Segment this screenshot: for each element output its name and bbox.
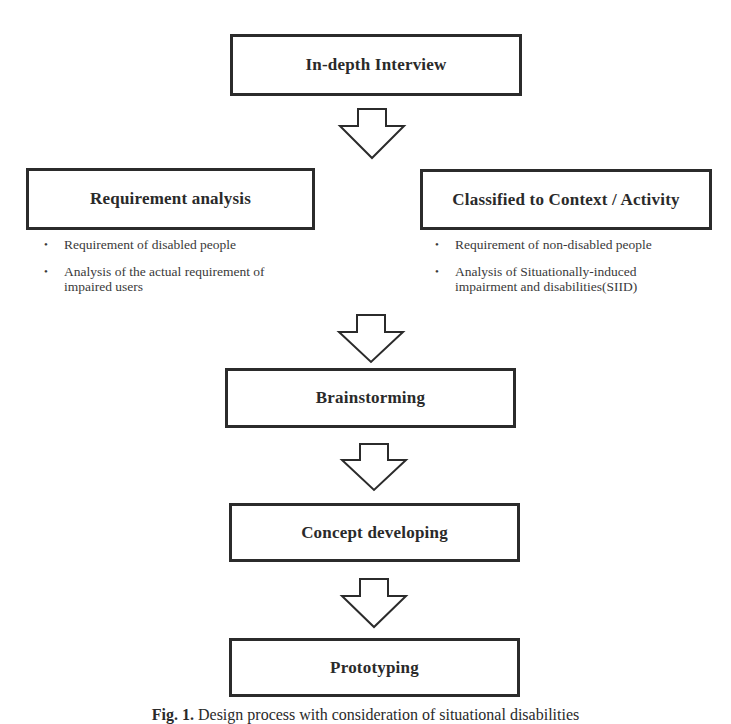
bullet-icon: •	[435, 264, 439, 279]
figure-caption: Fig. 1. Design process with consideratio…	[0, 706, 731, 724]
classified-context-label: Classified to Context / Activity	[452, 190, 679, 210]
figure-caption-text: Design process with consideration of sit…	[194, 706, 579, 723]
concept-developing-label: Concept developing	[301, 523, 448, 543]
down-arrow-icon	[335, 312, 407, 368]
brainstorming-box: Brainstorming	[225, 368, 516, 428]
down-arrow-icon	[338, 441, 410, 497]
bullet-icon: •	[435, 237, 439, 252]
classified-context-box: Classified to Context / Activity	[420, 169, 712, 230]
concept-developing-box: Concept developing	[229, 503, 520, 562]
bullet-item: •Requirement of disabled people	[44, 237, 314, 252]
bullet-icon: •	[44, 264, 48, 279]
down-arrow-icon	[336, 106, 408, 162]
requirement-analysis-label: Requirement analysis	[90, 189, 251, 209]
requirement-bullets: •Requirement of disabled people •Analysi…	[44, 237, 314, 306]
bullet-item: •Requirement of non-disabled people	[435, 237, 715, 252]
bullet-item: •Analysis of the actual requirement of i…	[44, 264, 284, 294]
classified-bullets: •Requirement of non-disabled people •Ana…	[435, 237, 715, 306]
figure-number: Fig. 1.	[152, 706, 194, 723]
interview-box: In-depth Interview	[230, 34, 522, 96]
bullet-icon: •	[44, 237, 48, 252]
prototyping-box: Prototyping	[229, 638, 520, 697]
bullet-item: •Analysis of Situationally-induced impai…	[435, 264, 685, 294]
prototyping-label: Prototyping	[330, 658, 419, 678]
interview-label: In-depth Interview	[305, 55, 446, 75]
down-arrow-icon	[338, 576, 410, 632]
brainstorming-label: Brainstorming	[316, 388, 425, 408]
requirement-analysis-box: Requirement analysis	[26, 168, 315, 230]
